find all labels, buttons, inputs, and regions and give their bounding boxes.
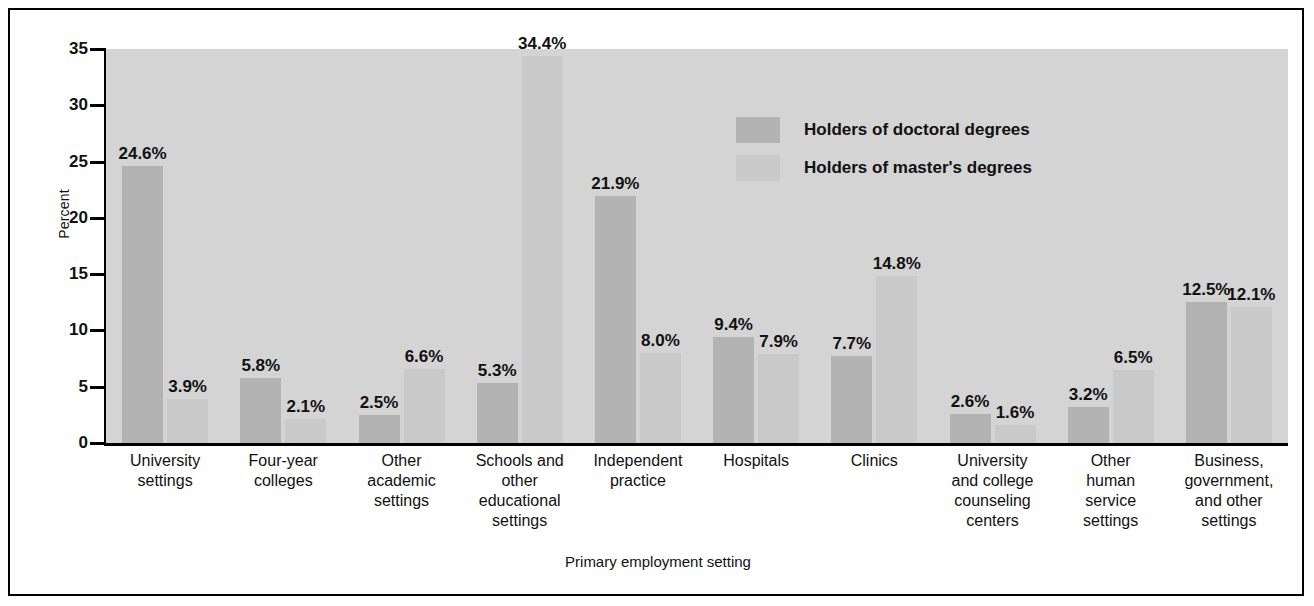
y-axis-tick-label: 10 (54, 321, 88, 338)
y-axis-tick-label: 5 (54, 378, 88, 395)
bar-value-label: 2.6% (945, 393, 996, 410)
y-axis-tick-mark (90, 217, 106, 220)
bar-value-label: 3.9% (162, 378, 213, 395)
y-axis-tick-mark (90, 442, 106, 445)
x-axis-category-line: Other (342, 451, 460, 471)
bar-masters (995, 425, 1036, 443)
x-axis-category-label: Schools andothereducationalsettings (461, 451, 579, 531)
x-axis-category-line: settings (461, 511, 579, 531)
x-axis-category-label: Business,government,and othersettings (1170, 451, 1288, 531)
x-axis-category-line: Independent (579, 451, 697, 471)
x-axis-category-line: other (461, 471, 579, 491)
y-axis-tick-label: 0 (54, 434, 88, 451)
bar-masters (1113, 370, 1154, 443)
x-axis-category-line: and other (1170, 491, 1288, 511)
bar-value-label: 5.3% (472, 362, 523, 379)
bar-value-label: 12.5% (1181, 281, 1232, 298)
bar-value-label: 6.5% (1108, 349, 1159, 366)
x-axis-category-line: centers (933, 511, 1051, 531)
bar-value-label: 2.1% (280, 398, 331, 415)
bar-doctoral (713, 337, 754, 443)
x-axis-line (104, 443, 1288, 446)
x-axis-category-label: Otherhumanservicesettings (1052, 451, 1170, 531)
x-axis-category-line: practice (579, 471, 697, 491)
bar-value-label: 14.8% (871, 255, 922, 272)
x-axis-category-line: academic (342, 471, 460, 491)
x-axis-category-line: Four-year (224, 451, 342, 471)
y-axis-tick-mark (90, 104, 106, 107)
bar-masters (640, 353, 681, 443)
bar-value-label: 6.6% (399, 348, 450, 365)
x-axis-category-line: settings (106, 471, 224, 491)
legend-label-masters: Holders of master's degrees (804, 158, 1032, 178)
bar-doctoral (122, 166, 163, 443)
x-axis-category-line: Schools and (461, 451, 579, 471)
x-axis-category-labels: UniversitysettingsFour-yearcollegesOther… (106, 451, 1288, 551)
legend-label-doctoral: Holders of doctoral degrees (804, 120, 1030, 140)
y-axis-tick-mark (90, 48, 106, 51)
chart-figure: Percent 05101520253035 24.6%3.9%5.8%2.1%… (8, 8, 1304, 596)
bar-masters (285, 419, 326, 443)
x-axis-category-line: and college (933, 471, 1051, 491)
bar-value-label: 3.2% (1063, 386, 1114, 403)
x-axis-category-line: Other (1052, 451, 1170, 471)
x-axis-category-line: colleges (224, 471, 342, 491)
y-axis-tick-mark (90, 161, 106, 164)
x-axis-category-line: Clinics (815, 451, 933, 471)
y-axis-tick-label: 25 (54, 153, 88, 170)
bar-doctoral (477, 383, 518, 443)
y-axis-tick-mark (90, 329, 106, 332)
x-axis-category-label: Four-yearcolleges (224, 451, 342, 491)
x-axis-category-label: Hospitals (697, 451, 815, 471)
x-axis-category-line: Hospitals (697, 451, 815, 471)
bar-masters (404, 369, 445, 443)
x-axis-category-line: service (1052, 491, 1170, 511)
bar-value-label: 12.1% (1226, 286, 1277, 303)
bar-value-label: 21.9% (590, 175, 641, 192)
bar-doctoral (831, 356, 872, 443)
x-axis-category-label: Clinics (815, 451, 933, 471)
legend-swatch-doctoral (736, 117, 780, 143)
x-axis-category-line: University (106, 451, 224, 471)
legend-item-masters: Holders of master's degrees (736, 149, 1156, 187)
x-axis-category-line: University (933, 451, 1051, 471)
bar-doctoral (359, 415, 400, 443)
x-axis-category-line: settings (342, 491, 460, 511)
bar-value-label: 5.8% (235, 357, 286, 374)
x-axis-title: Primary employment setting (10, 553, 1306, 570)
bar-doctoral (240, 378, 281, 443)
chart-legend: Holders of doctoral degrees Holders of m… (736, 111, 1156, 187)
x-axis-category-line: government, (1170, 471, 1288, 491)
bar-masters (876, 276, 917, 443)
x-axis-category-label: Otheracademicsettings (342, 451, 460, 511)
x-axis-category-line: human (1052, 471, 1170, 491)
bar-doctoral (1068, 407, 1109, 443)
legend-item-doctoral: Holders of doctoral degrees (736, 111, 1156, 149)
x-axis-category-line: counseling (933, 491, 1051, 511)
y-axis-tick-mark (90, 273, 106, 276)
bar-value-label: 9.4% (708, 316, 759, 333)
x-axis-category-label: Universityand collegecounselingcenters (933, 451, 1051, 531)
bar-value-label: 2.5% (354, 394, 405, 411)
bar-masters (522, 56, 563, 443)
bar-doctoral (950, 414, 991, 443)
x-axis-category-label: Independentpractice (579, 451, 697, 491)
y-axis-tick-label: 15 (54, 265, 88, 282)
x-axis-category-label: Universitysettings (106, 451, 224, 491)
bar-doctoral (595, 196, 636, 443)
bar-doctoral (1186, 302, 1227, 443)
bar-value-label: 7.9% (753, 333, 804, 350)
y-axis-tick-label: 35 (54, 40, 88, 57)
x-axis-category-line: educational (461, 491, 579, 511)
bar-value-label: 24.6% (117, 145, 168, 162)
bar-masters (167, 399, 208, 443)
bar-value-label: 8.0% (635, 332, 686, 349)
bar-masters (1231, 307, 1272, 443)
bar-value-label: 1.6% (990, 404, 1041, 421)
bar-value-label: 7.7% (826, 335, 877, 352)
x-axis-category-line: settings (1052, 511, 1170, 531)
x-axis-category-line: Business, (1170, 451, 1288, 471)
bar-masters (758, 354, 799, 443)
plot-area: 24.6%3.9%5.8%2.1%2.5%6.6%5.3%34.4%21.9%8… (106, 49, 1288, 443)
x-axis-category-line: settings (1170, 511, 1288, 531)
